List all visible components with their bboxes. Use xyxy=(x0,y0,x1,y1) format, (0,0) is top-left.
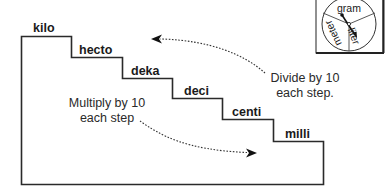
multiply-note-line2: each step xyxy=(63,111,151,126)
step-label-kilo: kilo xyxy=(33,21,55,35)
step-label-deci: deci xyxy=(184,84,209,98)
multiply-arrow-line xyxy=(140,121,247,153)
step-label-milli: milli xyxy=(285,127,310,141)
multiply-arrowhead-icon xyxy=(246,149,257,158)
divide-note: Divide by 10 each step. xyxy=(266,71,344,101)
multiply-note-line1: Multiply by 10 xyxy=(63,96,151,111)
divide-note-line2: each step. xyxy=(266,86,344,101)
step-label-deka: deka xyxy=(131,64,160,78)
step-label-centi: centi xyxy=(232,105,261,119)
step-label-hecto: hecto xyxy=(79,43,112,57)
divide-arrow-line xyxy=(160,39,265,73)
spinner-label-gram: gram xyxy=(337,2,361,14)
metric-staircase-diagram: kilo hecto deka deci centi milli Divide … xyxy=(0,0,386,196)
spinner-pivot xyxy=(347,22,350,25)
multiply-note: Multiply by 10 each step xyxy=(63,96,151,126)
divide-note-line1: Divide by 10 xyxy=(266,71,344,86)
